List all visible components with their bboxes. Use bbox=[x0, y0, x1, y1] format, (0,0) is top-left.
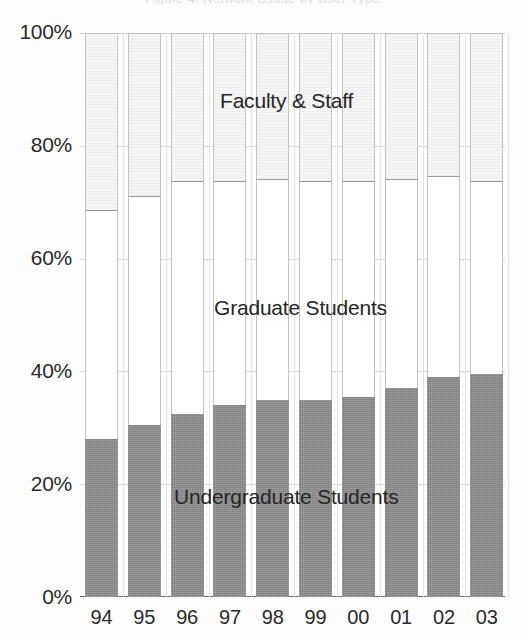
y-axis-label-80: 80% bbox=[0, 133, 72, 157]
series-label-undergraduate-students: Undergraduate Students bbox=[174, 485, 398, 509]
plot-area: Faculty & Staff Graduate Students Underg… bbox=[80, 33, 505, 597]
series-label-faculty-staff: Faculty & Staff bbox=[220, 89, 353, 113]
segment-00-series-1[interactable] bbox=[342, 182, 375, 396]
category-separator-02 bbox=[465, 33, 466, 597]
segment-97-series-1[interactable] bbox=[213, 182, 246, 405]
segment-03-series-2[interactable] bbox=[470, 33, 503, 182]
x-axis-label-00: 00 bbox=[336, 606, 380, 629]
category-separator-96 bbox=[209, 33, 210, 597]
x-axis-label-96: 96 bbox=[165, 606, 209, 629]
stacked-bar-chart: 100% 80% 60% 40% 20% 0% Faculty & Staff … bbox=[0, 0, 525, 640]
x-axis-label-94: 94 bbox=[80, 606, 124, 629]
segment-02-series-0[interactable] bbox=[427, 377, 460, 597]
segment-95-series-2[interactable] bbox=[128, 33, 161, 197]
x-axis-label-02: 02 bbox=[422, 606, 466, 629]
y-axis-label-40: 40% bbox=[0, 359, 72, 383]
segment-94-series-0[interactable] bbox=[85, 439, 118, 597]
x-axis-label-97: 97 bbox=[208, 606, 252, 629]
y-axis-label-100: 100% bbox=[0, 20, 72, 44]
segment-94-series-2[interactable] bbox=[85, 33, 118, 211]
x-axis-label-95: 95 bbox=[122, 606, 166, 629]
x-axis-label-99: 99 bbox=[294, 606, 338, 629]
y-axis-label-0: 0% bbox=[0, 585, 72, 609]
segment-02-series-1[interactable] bbox=[427, 177, 460, 377]
y-axis-label-20: 20% bbox=[0, 472, 72, 496]
category-separator-94 bbox=[123, 33, 124, 597]
segment-96-series-1[interactable] bbox=[171, 182, 204, 413]
segment-01-series-2[interactable] bbox=[385, 33, 418, 180]
series-label-graduate-students: Graduate Students bbox=[214, 296, 387, 320]
segment-03-series-1[interactable] bbox=[470, 182, 503, 374]
y-axis-label-60: 60% bbox=[0, 246, 72, 270]
segment-03-series-0[interactable] bbox=[470, 374, 503, 597]
segment-01-series-1[interactable] bbox=[385, 180, 418, 389]
segment-99-series-1[interactable] bbox=[299, 182, 332, 399]
segment-95-series-1[interactable] bbox=[128, 197, 161, 425]
x-axis-label-03: 03 bbox=[465, 606, 509, 629]
category-separator-01 bbox=[423, 33, 424, 597]
segment-96-series-2[interactable] bbox=[171, 33, 204, 182]
segment-95-series-0[interactable] bbox=[128, 425, 161, 597]
x-axis-label-98: 98 bbox=[251, 606, 295, 629]
segment-02-series-2[interactable] bbox=[427, 33, 460, 177]
x-axis-label-01: 01 bbox=[379, 606, 423, 629]
category-separator-03 bbox=[508, 33, 509, 597]
segment-98-series-1[interactable] bbox=[256, 180, 289, 400]
segment-94-series-1[interactable] bbox=[85, 211, 118, 439]
category-separator-95 bbox=[166, 33, 167, 597]
